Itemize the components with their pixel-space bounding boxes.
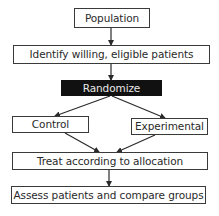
node-assess: Assess patients and compare groups bbox=[11, 186, 206, 204]
node-population-label: Population bbox=[85, 13, 139, 24]
node-experimental: Experimental bbox=[131, 118, 208, 135]
node-assess-label: Assess patients and compare groups bbox=[13, 190, 203, 201]
arrow-control-to-treat bbox=[65, 133, 99, 152]
node-randomize-label: Randomize bbox=[83, 83, 140, 94]
arrow-experimental-to-treat bbox=[117, 135, 155, 152]
node-experimental-label: Experimental bbox=[135, 121, 204, 132]
node-treat-label: Treat according to allocation bbox=[37, 156, 183, 167]
arrow-randomize-to-control bbox=[55, 96, 110, 116]
node-identify: Identify willing, eligible patients bbox=[13, 45, 210, 64]
node-population: Population bbox=[74, 8, 150, 28]
arrow-randomize-to-experimental bbox=[112, 96, 165, 118]
flowchart: Population Identify willing, eligible pa… bbox=[0, 0, 219, 216]
node-control-label: Control bbox=[32, 119, 69, 130]
node-identify-label: Identify willing, eligible patients bbox=[30, 49, 194, 60]
node-control: Control bbox=[12, 116, 89, 133]
node-randomize: Randomize bbox=[61, 80, 162, 96]
node-treat: Treat according to allocation bbox=[12, 152, 208, 170]
flowchart-arrows bbox=[0, 0, 219, 216]
